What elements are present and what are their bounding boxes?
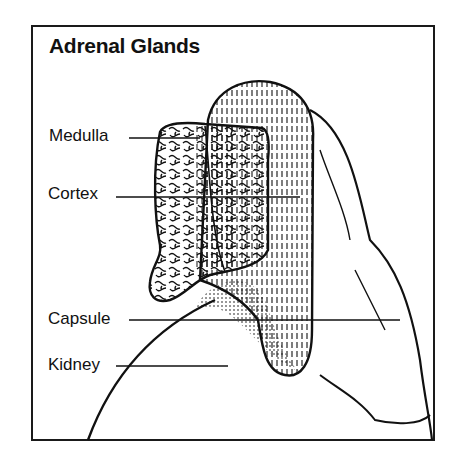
kidney-outline: [88, 300, 215, 440]
adrenal-gland-illustration: [0, 0, 462, 473]
outer-capsule-outline: [310, 110, 432, 440]
